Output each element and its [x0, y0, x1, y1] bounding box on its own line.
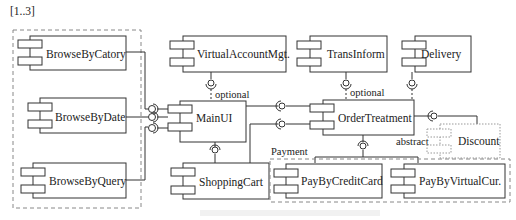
- component-icon: [391, 169, 415, 177]
- figure-caption-faint: [200, 210, 380, 216]
- component-icon: [171, 186, 195, 194]
- component-icon: [310, 121, 334, 129]
- interface-ordertreatment-discount: [414, 111, 477, 124]
- multiplicity-label: [1..3]: [10, 5, 35, 17]
- abstract-label: abstract: [396, 136, 429, 147]
- browse-connectors: [126, 52, 148, 180]
- component-label: Discount: [458, 135, 500, 147]
- component-label: BrowseByCatory: [46, 48, 126, 61]
- component-discount[interactable]: Discount: [427, 124, 500, 158]
- component-label: PayByCreditCard: [301, 175, 383, 188]
- component-icon: [427, 145, 451, 153]
- component-label: BrowseByDate: [55, 111, 125, 124]
- component-label: VirtualAccountMgt.: [197, 48, 290, 61]
- component-virtual-account-mgt[interactable]: VirtualAccountMgt.: [170, 36, 290, 72]
- component-pay-by-virtual-cur[interactable]: PayByVirtualCur.: [391, 164, 505, 198]
- component-browse-by-date[interactable]: BrowseByDate: [28, 98, 126, 133]
- component-label: MainUI: [196, 112, 233, 124]
- component-shopping-cart[interactable]: ShoppingCart: [171, 163, 269, 199]
- component-order-treatment[interactable]: OrderTreatment: [310, 100, 414, 135]
- component-icon: [168, 123, 192, 131]
- component-diagram: [1..3] BrowseByCatory BrowseByDate Brows…: [0, 0, 516, 220]
- component-main-ui[interactable]: MainUI: [168, 101, 246, 142]
- optional-label-trans: optional: [350, 87, 384, 98]
- interface-sockets-mainui-left: [149, 104, 169, 133]
- component-icon: [170, 41, 194, 49]
- component-icon: [28, 120, 52, 128]
- component-icon: [168, 105, 192, 113]
- component-icon: [18, 57, 42, 65]
- component-label: BrowseByQuery: [49, 175, 127, 188]
- component-browse-by-catory[interactable]: BrowseByCatory: [18, 36, 126, 70]
- component-icon: [170, 58, 194, 66]
- component-label: ShoppingCart: [199, 176, 264, 189]
- component-delivery[interactable]: Delivery: [402, 36, 471, 72]
- interface-delivery-ordertreatment: [407, 72, 417, 100]
- component-icon: [274, 169, 298, 177]
- component-browse-by-query[interactable]: BrowseByQuery: [21, 163, 127, 198]
- component-label: PayByVirtualCur.: [419, 175, 501, 188]
- component-icon: [21, 185, 45, 193]
- component-pay-by-credit-card[interactable]: PayByCreditCard: [274, 164, 383, 198]
- interface-mainui-shoppingcart: [210, 142, 220, 163]
- component-icon: [310, 104, 334, 112]
- component-icon: [18, 40, 42, 48]
- component-icon: [297, 58, 321, 66]
- component-label: TransInform: [327, 48, 385, 60]
- component-icon: [274, 185, 298, 193]
- optional-label-vam: optional: [215, 89, 249, 100]
- component-trans-inform[interactable]: TransInform: [297, 36, 387, 72]
- component-icon: [21, 168, 45, 176]
- component-icon: [171, 168, 195, 176]
- interface-mainui-ordertreatment: [246, 101, 310, 111]
- component-icon: [297, 41, 321, 49]
- component-icon: [28, 103, 52, 111]
- payment-group-label: Payment: [271, 146, 308, 157]
- component-icon: [391, 185, 415, 193]
- component-icon: [427, 129, 451, 137]
- component-label: OrderTreatment: [338, 112, 412, 124]
- component-label: Delivery: [421, 48, 461, 61]
